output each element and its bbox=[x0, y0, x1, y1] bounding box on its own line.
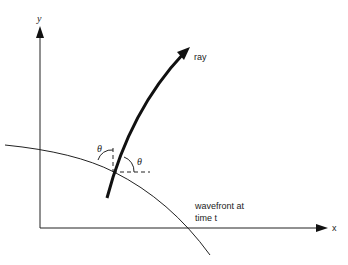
y-axis: y bbox=[36, 13, 44, 228]
wavefront-label-line1: wavefront at bbox=[194, 201, 245, 211]
y-axis-label: y bbox=[36, 13, 42, 24]
ray-wavefront-diagram: y x θ θ ray wavefront at time t bbox=[0, 0, 348, 265]
x-axis-label: x bbox=[332, 223, 337, 233]
theta-label-right: θ bbox=[137, 156, 142, 167]
ray-label: ray bbox=[194, 52, 207, 62]
wavefront-label-line2: time t bbox=[195, 213, 218, 223]
theta-label-left: θ bbox=[97, 143, 102, 154]
wavefront-curve bbox=[5, 145, 210, 255]
y-axis-arrow-icon bbox=[36, 26, 44, 38]
angle-arc-right bbox=[124, 157, 134, 172]
ray-path bbox=[107, 53, 184, 198]
x-axis-arrow-icon bbox=[316, 224, 328, 232]
